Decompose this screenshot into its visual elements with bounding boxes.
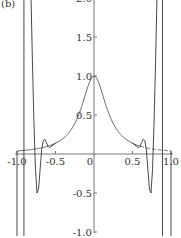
- x-tick-label: 1.0: [163, 156, 179, 167]
- panel-label: (b): [1, 0, 15, 9]
- x-tick-label-zero: 0: [87, 156, 93, 167]
- x-tick-label: -1.0: [7, 156, 26, 167]
- y-tick-label: 0.5: [76, 110, 92, 121]
- y-tick-label: 2.0: [76, 0, 92, 4]
- x-tick-label: -0.5: [46, 156, 65, 167]
- axes: [15, 0, 173, 233]
- y-tick-label: 1.0: [76, 71, 92, 82]
- ticks-group: -1.0-0.50.51.002.01.51.00.5-0.5-1.0: [7, 0, 179, 238]
- y-tick-label: 1.5: [76, 32, 92, 43]
- runge-chart: (b) -1.0-0.50.51.002.01.51.00.5-0.5-1.0: [0, 0, 181, 238]
- x-tick-label: 0.5: [125, 156, 141, 167]
- y-tick-label: -1.0: [73, 227, 92, 238]
- y-tick-label: -0.5: [73, 188, 92, 199]
- runge-function-tail-line: [140, 146, 171, 151]
